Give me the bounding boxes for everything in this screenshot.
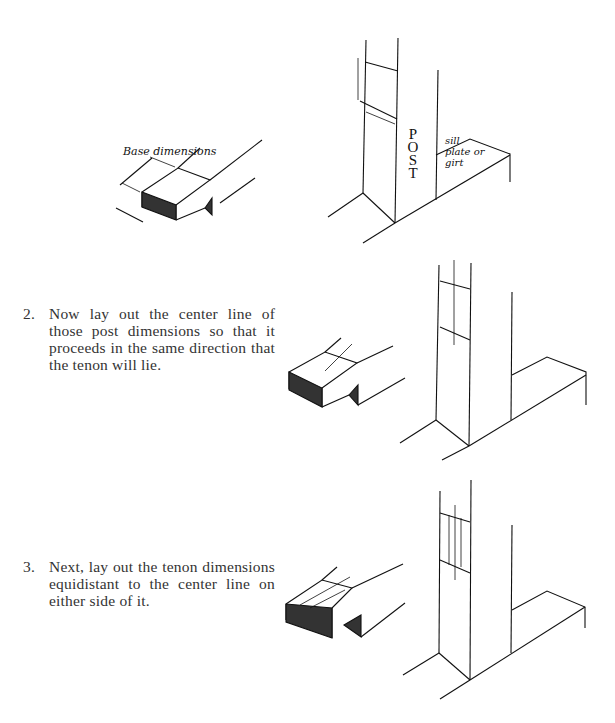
sill-label-line: plate or: [445, 146, 484, 157]
post-letter: T: [406, 167, 420, 180]
figure-3-drawing: [286, 480, 585, 699]
sill-label-line: girt: [445, 157, 484, 168]
sill-label-line: sill: [445, 135, 484, 146]
base-dimensions-label: Base dimensions: [123, 145, 216, 158]
sill-plate-label: sill plate or girt: [445, 135, 484, 168]
post-label: P O S T: [406, 128, 420, 180]
step-number: 3.: [23, 558, 43, 575]
step-2: 2. Now lay out the center line of those …: [23, 305, 275, 373]
step-text: Now lay out the center line of those pos…: [49, 305, 275, 373]
figure-2-drawing: [289, 260, 586, 460]
step-number: 2.: [23, 305, 43, 322]
step-text: Next, lay out the tenon dimensions equid…: [49, 558, 275, 609]
step-3: 3. Next, lay out the tenon dimensions eq…: [23, 558, 275, 609]
